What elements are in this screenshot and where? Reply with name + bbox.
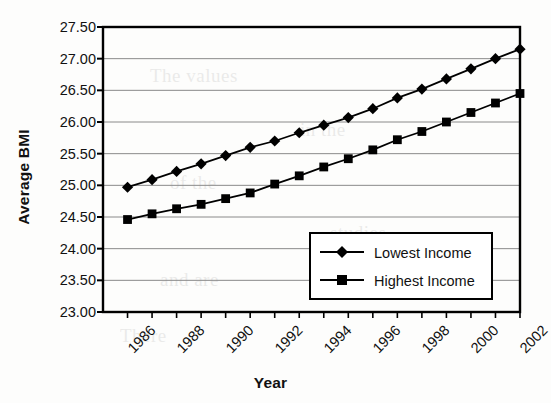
- x-tick-label: 1986: [124, 322, 158, 356]
- x-tick-label: 2002: [517, 322, 551, 356]
- x-axis-title: Year: [0, 374, 541, 392]
- x-tick-label: 1992: [272, 322, 306, 356]
- x-tick-label: 1988: [173, 322, 207, 356]
- x-tick-label: 1994: [321, 322, 355, 356]
- x-tick-label: 2000: [468, 322, 502, 356]
- x-tick-label: 1990: [223, 322, 257, 356]
- x-tick-label: 1996: [370, 322, 404, 356]
- x-tick-label: 1998: [419, 322, 453, 356]
